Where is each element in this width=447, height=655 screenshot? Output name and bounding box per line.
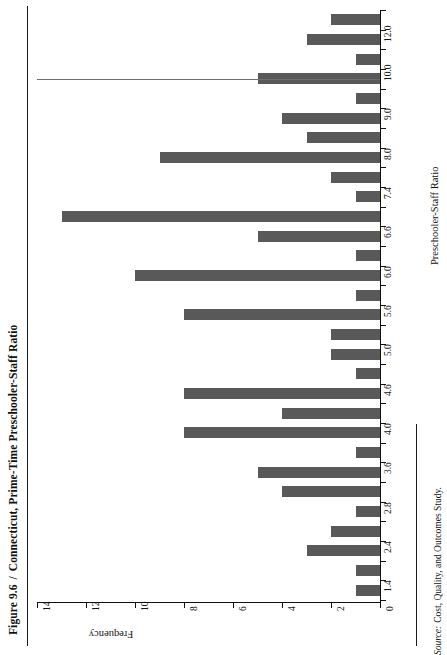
- page-title: Connecticut, Prime-Time Preschooler-Staf…: [7, 325, 19, 572]
- bar-row: [37, 93, 380, 104]
- figure-number: Figure 9.6: [7, 584, 19, 635]
- bar: [331, 14, 380, 25]
- category-tick-label: 3.6: [382, 444, 394, 474]
- bar-row: [37, 486, 380, 497]
- category-tick-label: 6.6: [382, 208, 394, 238]
- category-tick-label: 2.8: [382, 484, 394, 514]
- frequency-tick: [135, 603, 136, 608]
- bar-row: [37, 545, 380, 556]
- bar: [356, 368, 381, 379]
- bar-row: [37, 506, 380, 517]
- category-tick-label: 2.4: [382, 523, 394, 553]
- bar-row: [37, 427, 380, 438]
- bar-row: [37, 309, 380, 320]
- bar: [184, 388, 380, 399]
- bar: [356, 290, 381, 301]
- bar-row: [37, 447, 380, 458]
- category-tick: [381, 10, 386, 11]
- bar-row: [37, 585, 380, 596]
- frequency-tick: [37, 603, 38, 608]
- bar-row: [37, 54, 380, 65]
- bar: [356, 565, 381, 576]
- bar: [331, 329, 380, 340]
- source-text: Cost, Quality, and Outcomes Study.: [433, 487, 443, 626]
- category-tick-label: 12.0: [382, 12, 394, 42]
- bar: [258, 231, 381, 242]
- bar-row: [37, 132, 380, 143]
- bar: [356, 93, 381, 104]
- frequency-tick: [331, 603, 332, 608]
- frequency-tick-label: 0: [384, 589, 396, 611]
- bar: [307, 545, 381, 556]
- frequency-tick-label: 6: [237, 589, 249, 611]
- category-tick: [381, 482, 386, 483]
- bar: [356, 585, 381, 596]
- frequency-tick-label: 2: [335, 589, 347, 611]
- bar-row: [37, 34, 380, 45]
- bar-row: [37, 467, 380, 478]
- frequency-tick: [86, 603, 87, 608]
- bar: [356, 250, 381, 261]
- bar-row: [37, 172, 380, 183]
- bar-row: [37, 368, 380, 379]
- frequency-tick-label: 12: [90, 589, 102, 611]
- category-tick: [381, 364, 386, 365]
- bar-row: [37, 211, 380, 222]
- category-tick-label: 10.0: [382, 51, 394, 81]
- category-tick-label: 4.6: [382, 366, 394, 396]
- bar-row: [37, 250, 380, 261]
- figure-title-separator: /: [7, 571, 19, 584]
- bar: [356, 506, 381, 517]
- plot-hairline-rule: [37, 79, 380, 80]
- frequency-axis-title: Frequency: [31, 626, 191, 640]
- bar-row: [37, 14, 380, 25]
- category-tick-label: 7.4: [382, 169, 394, 199]
- category-tick-label: 6.0: [382, 248, 394, 278]
- bar-row: [37, 329, 380, 340]
- bar: [282, 113, 380, 124]
- bar: [356, 447, 381, 458]
- bar: [184, 427, 380, 438]
- category-tick-label: 4.0: [382, 405, 394, 435]
- category-tick-label: 5.6: [382, 287, 394, 317]
- bar-row: [37, 526, 380, 537]
- bar: [331, 172, 380, 183]
- bar: [331, 526, 380, 537]
- category-tick-label: 9.0: [382, 90, 394, 120]
- bar: [356, 54, 381, 65]
- bar: [282, 486, 380, 497]
- frequency-tick-label: 14: [41, 589, 53, 611]
- source-note-block: Source: Cost, Quality, and Outcomes Stud…: [416, 0, 438, 651]
- bar-row: [37, 565, 380, 576]
- bar: [160, 152, 381, 163]
- bar: [258, 467, 381, 478]
- bar-row: [37, 231, 380, 242]
- bar: [331, 349, 380, 360]
- frequency-tick-label: 10: [139, 589, 151, 611]
- bar-row: [37, 191, 380, 202]
- bar-row: [37, 388, 380, 399]
- category-tick-label: 8.0: [382, 130, 394, 160]
- frequency-tick: [233, 603, 234, 608]
- bar-row: [37, 270, 380, 281]
- title-divider-rule: [27, 6, 28, 646]
- category-axis-line: [380, 10, 381, 602]
- frequency-tick: [282, 603, 283, 608]
- bar-row: [37, 349, 380, 360]
- category-tick: [381, 246, 386, 247]
- source-label: Source:: [433, 626, 443, 655]
- bar: [282, 408, 380, 419]
- category-tick-label: 5.0: [382, 326, 394, 356]
- frequency-tick: [380, 603, 381, 608]
- category-tick: [381, 128, 386, 129]
- frequency-tick-label: 4: [286, 589, 298, 611]
- frequency-tick-label: 8: [188, 589, 200, 611]
- bar-row: [37, 113, 380, 124]
- bar-series: [37, 10, 380, 600]
- bar-row: [37, 152, 380, 163]
- category-tick-label: 1.4: [382, 562, 394, 592]
- bar: [356, 191, 381, 202]
- chart-plot-area: 12.010.09.08.07.46.66.05.65.04.64.03.62.…: [37, 10, 380, 600]
- frequency-tick: [184, 603, 185, 608]
- bar: [307, 34, 381, 45]
